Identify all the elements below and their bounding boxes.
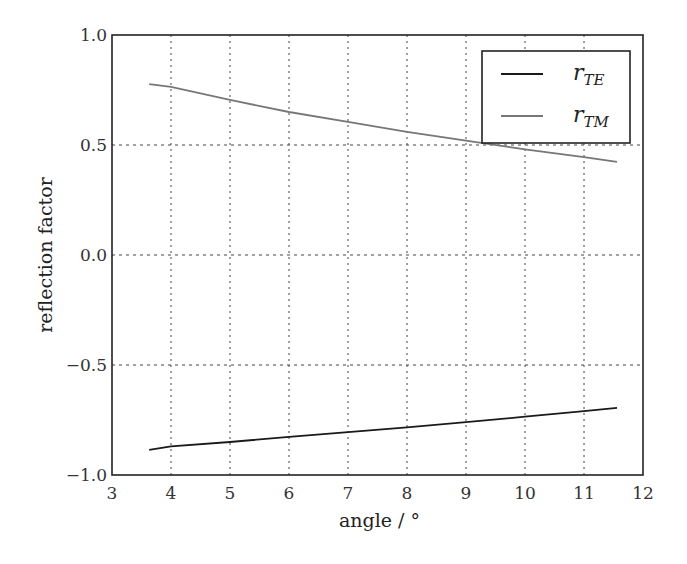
line-chart: 3456789101112 1.00.50.0−0.5−1.0 angle / … bbox=[0, 0, 687, 564]
x-tick-label: 9 bbox=[461, 483, 472, 503]
x-tick-label: 7 bbox=[343, 483, 354, 503]
y-axis-title: reflection factor bbox=[34, 176, 56, 332]
x-tick-label: 8 bbox=[402, 483, 413, 503]
legend: rTErTM bbox=[482, 51, 630, 143]
x-tick-label: 11 bbox=[573, 483, 595, 503]
x-tick-label: 6 bbox=[284, 483, 295, 503]
y-tick-label: 0.5 bbox=[80, 135, 107, 155]
x-tick-label: 10 bbox=[514, 483, 536, 503]
x-axis-title: angle / ° bbox=[339, 509, 420, 531]
x-tick-label: 5 bbox=[225, 483, 236, 503]
series-line-r-te bbox=[149, 408, 617, 450]
y-tick-label: −1.0 bbox=[66, 465, 107, 485]
y-tick-label: 0.0 bbox=[80, 245, 107, 265]
x-tick-label: 4 bbox=[166, 483, 177, 503]
y-tick-label: 1.0 bbox=[80, 25, 107, 45]
y-axis-ticks: 1.00.50.0−0.5−1.0 bbox=[66, 25, 107, 485]
x-axis-ticks: 3456789101112 bbox=[107, 483, 654, 503]
x-tick-label: 12 bbox=[632, 483, 654, 503]
y-tick-label: −0.5 bbox=[66, 355, 107, 375]
x-tick-label: 3 bbox=[107, 483, 118, 503]
